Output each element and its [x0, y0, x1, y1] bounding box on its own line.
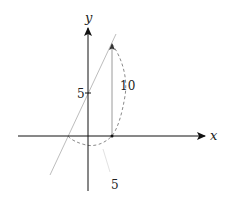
coordinate-diagram: y x 5 10 5	[0, 0, 234, 203]
x-axis-label: x	[210, 128, 218, 143]
y-tick-label: 5	[77, 87, 85, 101]
diagram-canvas: y x 5 10 5	[0, 0, 234, 203]
diagonal-line	[50, 34, 116, 175]
bottom-label: 5	[111, 178, 119, 192]
faint-segment	[103, 149, 110, 172]
segment-length-label: 10	[120, 79, 135, 93]
segment-base-point	[111, 135, 114, 138]
y-axis-label: y	[84, 10, 93, 25]
